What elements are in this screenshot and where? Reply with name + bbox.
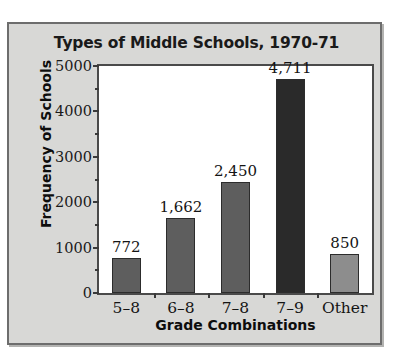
y-tick-label: 2000: [55, 194, 92, 210]
x-tick-mark: [154, 293, 156, 298]
chart-title: Types of Middle Schools, 1970-71: [9, 34, 384, 52]
x-tick-mark: [317, 293, 319, 298]
y-tick-mark-minor: [95, 269, 99, 271]
y-tick-label: 0: [83, 285, 92, 301]
y-tick-mark: [93, 65, 99, 67]
bar-value-label: 1,662: [159, 198, 202, 216]
x-tick-label: 5–8: [113, 299, 140, 317]
bar: 772: [112, 258, 141, 293]
y-tick-mark-minor: [95, 224, 99, 226]
x-tick-label: 7–9: [276, 299, 303, 317]
x-axis-title: Grade Combinations: [97, 317, 374, 333]
y-tick-mark: [93, 247, 99, 249]
bar: 4,711: [276, 79, 305, 293]
x-tick-label: Other: [322, 299, 368, 317]
y-tick-mark-minor: [95, 179, 99, 181]
plot-area: 010002000300040005000 7721,6622,4504,711…: [97, 64, 374, 295]
y-tick-mark: [93, 292, 99, 294]
y-tick-label: 1000: [55, 240, 92, 256]
x-tick-label: 6–8: [167, 299, 194, 317]
bar-value-label: 772: [112, 238, 141, 256]
x-tick-mark: [208, 293, 210, 298]
bar-value-label: 2,450: [214, 162, 257, 180]
chart-panel: Types of Middle Schools, 1970-71 Frequen…: [7, 22, 382, 345]
y-tick-mark: [93, 156, 99, 158]
y-tick-label: 3000: [55, 149, 92, 165]
y-tick-label: 5000: [55, 58, 92, 74]
y-tick-mark: [93, 201, 99, 203]
x-tick-mark: [263, 293, 265, 298]
bar: 1,662: [166, 218, 195, 293]
y-tick-mark-minor: [95, 88, 99, 90]
bar-value-label: 850: [330, 234, 359, 252]
y-axis-title: Frequency of Schools: [38, 44, 54, 244]
bar: 2,450: [221, 182, 250, 293]
y-tick-mark-minor: [95, 133, 99, 135]
x-tick-label: 7–8: [222, 299, 249, 317]
bar-value-label: 4,711: [269, 59, 312, 77]
y-tick-label: 4000: [55, 103, 92, 119]
y-tick-mark: [93, 110, 99, 112]
chart-figure: Types of Middle Schools, 1970-71 Frequen…: [0, 0, 406, 361]
bar: 850: [330, 254, 359, 293]
